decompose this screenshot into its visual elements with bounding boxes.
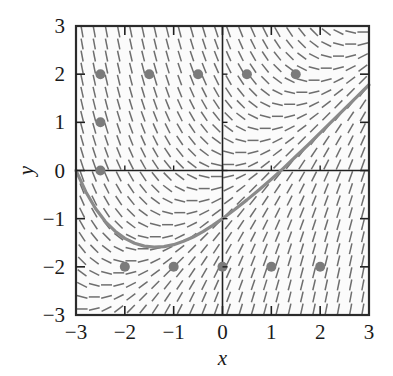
x-tick-label: 2 [315,320,326,344]
y-tick-label: 2 [55,62,66,86]
marked-point [144,69,154,79]
x-tick-label: 0 [217,320,228,344]
marked-point [291,69,301,79]
x-tick-label: 3 [364,320,375,344]
marked-point [95,69,105,79]
x-tick-label: −1 [163,320,185,344]
marked-point [242,69,252,79]
x-tick-label: 1 [266,320,277,344]
marked-point [95,166,105,176]
y-tick-label: 3 [55,14,66,38]
plot-canvas: −3−2−10123 −3−2−10123 x y [0,0,393,376]
marked-point [266,262,276,272]
marked-point [169,262,179,272]
y-tick-label: 0 [55,159,66,183]
x-tick-label: −3 [65,320,87,344]
marked-point [315,262,325,272]
marked-point [193,69,203,79]
marked-point [120,262,130,272]
y-tick-label: 1 [55,110,66,134]
slope-field-figure: −3−2−10123 −3−2−10123 x y [0,0,393,376]
y-tick-label: −2 [43,255,65,279]
x-tick-label: −2 [114,320,136,344]
x-axis-label: x [217,346,228,370]
marked-point [95,117,105,127]
y-axis-label: y [14,165,38,177]
y-tick-label: −1 [43,207,65,231]
y-tick-label: −3 [43,303,65,327]
